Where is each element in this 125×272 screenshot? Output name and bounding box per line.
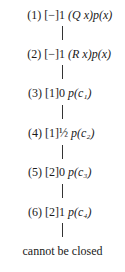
connector-line bbox=[62, 184, 63, 198]
connector-line bbox=[62, 26, 63, 40]
node-value: 0 bbox=[59, 86, 65, 100]
node-value: 1 bbox=[59, 47, 65, 61]
node-value: 1 bbox=[59, 205, 65, 219]
node-label: (1) [−] bbox=[27, 7, 59, 23]
node-label: (3) [1] bbox=[28, 85, 59, 101]
node-formula: p(c₄) bbox=[68, 205, 92, 219]
tableau-node-3: (3) [1] 0p(c₁) bbox=[0, 85, 125, 101]
node-value: 1 bbox=[59, 8, 65, 22]
node-formula: (Q x)p(x) bbox=[68, 8, 112, 22]
connector-line bbox=[62, 65, 63, 79]
node-label: (6) [2] bbox=[28, 204, 59, 220]
node-label: (2) [−] bbox=[27, 46, 59, 62]
conclusion-text: cannot be closed bbox=[0, 243, 125, 259]
node-value: ½ bbox=[59, 126, 68, 140]
connector-line bbox=[62, 105, 63, 119]
node-value: 0 bbox=[59, 165, 65, 179]
tableau-node-5: (5) [2] 0p(c₃) bbox=[0, 164, 125, 180]
connector-line bbox=[62, 145, 63, 159]
node-formula: p(c₂) bbox=[71, 126, 95, 140]
tableau-node-2: (2) [−] 1(R x)p(x) bbox=[0, 46, 125, 62]
node-label: (5) [2] bbox=[28, 164, 59, 180]
tableau-node-1: (1) [−] 1(Q x)p(x) bbox=[0, 7, 125, 23]
node-formula: p(c₁) bbox=[68, 86, 92, 100]
node-formula: (R x)p(x) bbox=[68, 47, 111, 61]
node-label: (4) [1] bbox=[28, 125, 59, 141]
tableau-node-4: (4) [1] ½p(c₂) bbox=[0, 125, 125, 141]
connector-line bbox=[62, 223, 63, 237]
node-formula: p(c₃) bbox=[68, 165, 92, 179]
tableau-node-6: (6) [2] 1p(c₄) bbox=[0, 204, 125, 220]
